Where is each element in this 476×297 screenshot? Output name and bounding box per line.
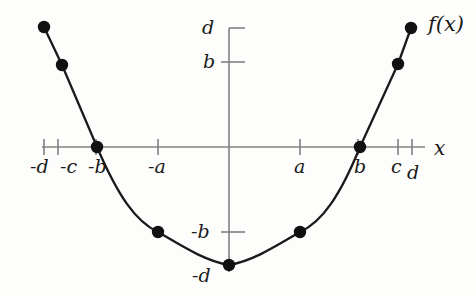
y-axis-ticks [221, 28, 245, 232]
x-tick-label-b: b [354, 157, 366, 176]
data-point [223, 259, 235, 271]
plot-canvas [0, 0, 476, 297]
data-point [91, 141, 103, 153]
data-point [294, 226, 306, 238]
x-tick-label-a: a [294, 157, 305, 176]
x-tick-label-neg-a: -a [148, 157, 166, 176]
function-label: f(x) [428, 14, 464, 35]
x-tick-label-c: c [391, 157, 402, 176]
y-tick-label-d: d [202, 18, 214, 37]
math-plot-figure: -d -c -b -a a b c d d b -b -d x f(x) [0, 0, 476, 297]
data-point-group [38, 21, 417, 271]
data-point [56, 59, 68, 71]
x-tick-label-neg-d: -d [30, 157, 49, 176]
y-tick-label-neg-d: -d [192, 266, 211, 285]
data-point [38, 21, 50, 33]
data-point [152, 226, 164, 238]
data-point [354, 141, 366, 153]
y-tick-label-neg-b: -b [191, 222, 210, 241]
data-point [392, 58, 404, 70]
x-tick-label-neg-b: -b [88, 157, 107, 176]
x-tick-label-d: d [407, 163, 419, 182]
x-tick-label-neg-c: -c [60, 157, 77, 176]
x-axis-label: x [434, 138, 445, 158]
data-point [405, 22, 417, 34]
y-tick-label-b: b [203, 52, 215, 71]
